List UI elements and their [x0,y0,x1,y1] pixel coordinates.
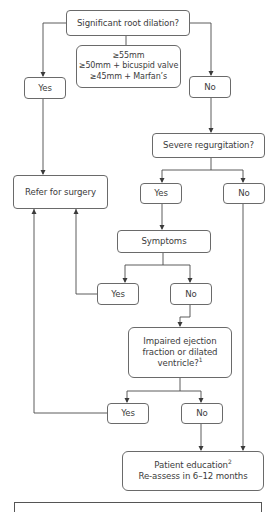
ef-yes-box: Yes [107,403,149,424]
symptoms-no-box: No [170,283,212,305]
root-yes-label: Yes [38,83,52,94]
ef-question-line-3: ventricle?1 [158,358,203,369]
ef-question-line-1: Impaired ejection [143,336,216,347]
criteria-line-1: ≥55mm [113,51,145,62]
symptoms-yes-box: Yes [97,283,139,305]
root-dilation-question-box: Significant root dilation? [66,10,190,36]
regurgitation-yes-label: Yes [154,188,168,199]
ejection-fraction-question-box: Impaired ejection fraction or dilated ve… [128,327,232,378]
footnote-ref-1: 1 [199,356,203,363]
criteria-line-2: ≥50mm + bicuspid valve [79,61,178,72]
footnote-ref-2: 2 [228,458,232,465]
criteria-line-3: ≥45mm + Marfan’s [90,72,167,83]
root-dilation-question-text: Significant root dilation? [77,18,179,29]
regurgitation-no-box: No [223,183,265,204]
ef-yes-label: Yes [121,408,135,419]
refer-for-surgery-text: Refer for surgery [25,187,96,198]
patient-education-text: Patient education [154,460,228,470]
patient-education-box: Patient education2 Re-assess in 6–12 mon… [122,451,264,491]
refer-for-surgery-box: Refer for surgery [13,175,108,209]
root-yes-box: Yes [24,77,66,99]
ef-question-line-3-text: ventricle? [158,358,199,368]
symptoms-yes-label: Yes [111,289,125,300]
ef-no-label: No [196,408,208,419]
root-no-box: No [189,76,231,98]
footnote-box [14,502,262,512]
dilation-criteria-box: ≥55mm ≥50mm + bicuspid valve ≥45mm + Mar… [76,45,181,88]
ef-question-line-2: fraction or dilated [143,347,218,358]
root-no-label: No [204,82,216,93]
ef-no-box: No [181,403,223,424]
severe-regurgitation-question-text: Severe regurgitation? [163,140,254,151]
symptoms-no-label: No [185,289,197,300]
symptoms-text: Symptoms [141,236,186,247]
regurgitation-no-label: No [238,188,250,199]
regurgitation-yes-box: Yes [140,183,182,204]
patient-education-line-1: Patient education2 [154,460,231,471]
symptoms-box: Symptoms [117,230,211,253]
reassess-text: Re-assess in 6–12 months [138,471,247,482]
severe-regurgitation-question-box: Severe regurgitation? [152,133,265,158]
